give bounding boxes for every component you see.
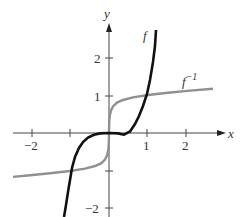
- function-inverse-plot: y x f f−1 −2 1 2 2 1 −2: [0, 0, 241, 217]
- x-tick-label-1: 1: [143, 138, 150, 153]
- y-axis-arrow-icon: [106, 23, 112, 32]
- y-tick-label-neg2: −2: [85, 201, 99, 216]
- f-label: f: [143, 28, 149, 43]
- x-tick-label-neg2: −2: [24, 138, 38, 153]
- y-axis-label: y: [102, 6, 110, 21]
- y-tick-label-2: 2: [94, 51, 101, 66]
- f-inverse-label: f−1: [182, 71, 197, 89]
- x-tick-label-2: 2: [182, 138, 189, 153]
- axes: [13, 23, 226, 217]
- y-tick-label-1: 1: [94, 89, 101, 104]
- x-axis-label: x: [227, 126, 234, 141]
- x-axis-arrow-icon: [217, 130, 226, 136]
